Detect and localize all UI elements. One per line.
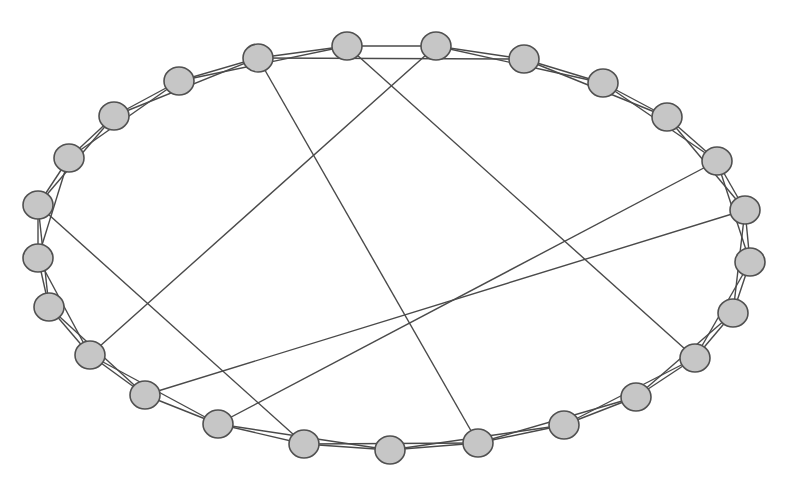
- graph-node-3: [509, 45, 539, 73]
- graph-node-8: [735, 248, 765, 276]
- graph-node-19: [34, 293, 64, 321]
- graph-node-6: [702, 147, 732, 175]
- graph-node-5: [652, 103, 682, 131]
- graph-node-7: [730, 196, 760, 224]
- edge-2-18: [90, 46, 436, 355]
- graph-node-15: [289, 430, 319, 458]
- graph-node-20: [23, 244, 53, 272]
- graph-node-14: [375, 436, 405, 464]
- graph-node-0: [243, 44, 273, 72]
- edge-0-3: [258, 58, 524, 59]
- graph-node-23: [99, 102, 129, 130]
- graph-node-1: [332, 32, 362, 60]
- graph-node-21: [23, 191, 53, 219]
- graph-node-2: [421, 32, 451, 60]
- network-graph: [0, 0, 789, 487]
- graph-node-10: [680, 344, 710, 372]
- graph-node-4: [588, 69, 618, 97]
- edge-21-15: [38, 205, 304, 444]
- graph-node-13: [463, 429, 493, 457]
- graph-node-9: [718, 299, 748, 327]
- edge-1-10: [347, 46, 695, 358]
- graph-node-24: [164, 67, 194, 95]
- graph-node-17: [130, 381, 160, 409]
- edge-7-17: [145, 210, 745, 395]
- graph-node-18: [75, 341, 105, 369]
- graph-node-11: [621, 383, 651, 411]
- graph-node-22: [54, 144, 84, 172]
- graph-node-16: [203, 410, 233, 438]
- graph-node-12: [549, 411, 579, 439]
- node-layer: [23, 32, 765, 464]
